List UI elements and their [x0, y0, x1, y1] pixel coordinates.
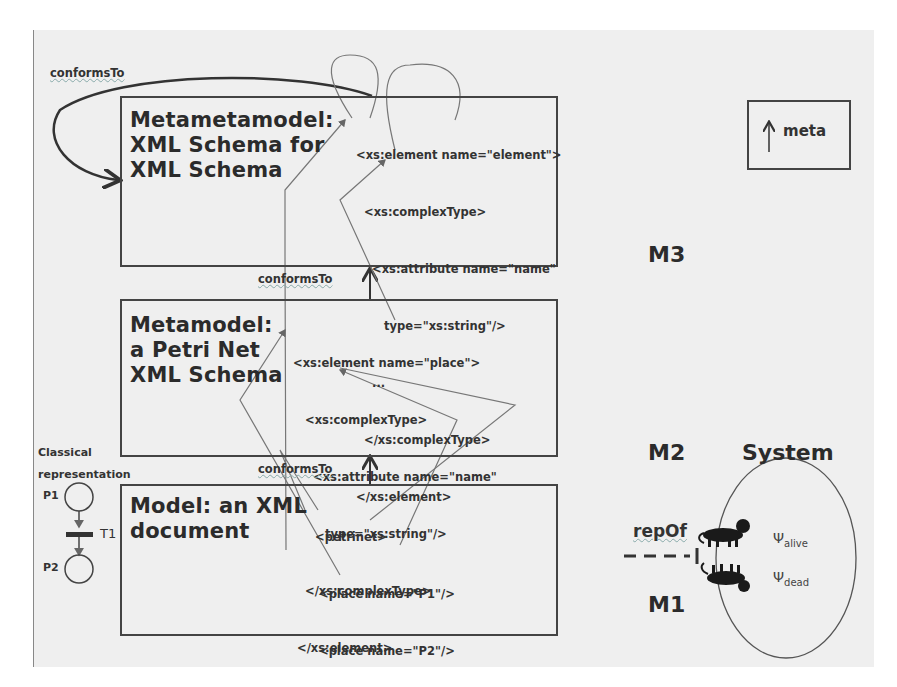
m2-title-line: a Petri Net [130, 338, 283, 363]
code-line: <xs:complexType> [293, 411, 497, 430]
code-line: <xs:attribute name="name" [356, 260, 562, 279]
m1-title-line: Model: an XML [130, 494, 307, 519]
code-line: <xs:complexType> [356, 203, 562, 222]
psi-subscript: dead [784, 577, 809, 588]
conformsto-label-self: conformsTo [50, 66, 125, 80]
psi-alive-label: Ψalive [773, 530, 808, 549]
system-ellipse [716, 458, 856, 658]
code-line: <petrinet> [315, 528, 546, 547]
psi-symbol: Ψ [773, 530, 784, 546]
psi-symbol: Ψ [773, 569, 784, 585]
code-line: <xs:element name="element"> [356, 146, 562, 165]
meta-legend-label: meta [783, 122, 826, 140]
classical-heading-line: representation [38, 464, 131, 486]
psi-dead-label: Ψdead [773, 569, 809, 588]
petri-t1-label: T1 [100, 526, 116, 541]
system-label: System [742, 440, 834, 465]
m1-title-line: document [130, 519, 307, 544]
code-line: <place name="P1"/> [315, 585, 546, 604]
repof-label: repOf [633, 521, 687, 541]
petri-transition-t1 [66, 532, 93, 537]
classical-heading: Classical representation [38, 442, 131, 486]
petri-place-p1 [65, 483, 93, 511]
m3-title-line: XML Schema for [130, 133, 334, 158]
classical-heading-line: Classical [38, 442, 131, 464]
m3-title-line: XML Schema [130, 158, 334, 183]
code-line: <place name="P2"/> [315, 642, 546, 661]
m1-title: Model: an XML document [130, 494, 307, 544]
petri-p2-label: P2 [43, 561, 59, 574]
cat-dead-icon [702, 563, 750, 592]
conformsto-label-m2: conformsTo [258, 272, 333, 286]
m3-title: Metametamodel: XML Schema for XML Schema [130, 108, 334, 183]
m1-level-label: M1 [648, 592, 685, 617]
psi-subscript: alive [784, 538, 808, 549]
m2-title: Metamodel: a Petri Net XML Schema [130, 313, 283, 388]
code-line: <xs:element name="place"> [293, 354, 497, 373]
m3-level-label: M3 [648, 242, 685, 267]
m1-code: <petrinet> <place name="P1"/> <place nam… [315, 490, 546, 687]
m2-level-label: M2 [648, 440, 685, 465]
m2-title-line: XML Schema [130, 363, 283, 388]
petri-p1-label: P1 [43, 489, 59, 502]
m3-title-line: Metametamodel: [130, 108, 334, 133]
cat-alive-icon [699, 519, 750, 547]
conformsto-label-m1: conformsTo [258, 462, 333, 476]
m2-title-line: Metamodel: [130, 313, 283, 338]
petri-place-p2 [65, 555, 93, 583]
